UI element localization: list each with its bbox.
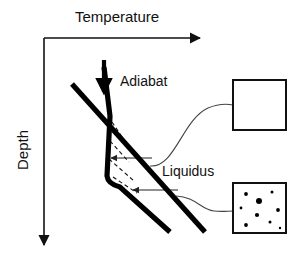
melt-dot [269, 221, 272, 224]
solid-mantle-inset-box [233, 80, 286, 130]
partial-melt-inset [233, 183, 286, 233]
melt-dot [240, 207, 243, 210]
melt-dot [255, 213, 259, 217]
liquidus-label: Liquidus [162, 163, 214, 179]
hatch-line [109, 159, 134, 181]
solid-mantle-leader-curve [150, 104, 233, 166]
melt-dot [276, 208, 280, 212]
diagram-canvas: Temperature Depth Adiabat Liquidus [0, 0, 301, 271]
temperature-axis-label: Temperature [75, 8, 159, 25]
solid-mantle-inset [233, 80, 286, 130]
figure-root: Temperature Depth Adiabat Liquidus [0, 0, 301, 271]
depth-axis-label: Depth [14, 130, 31, 170]
leader-group [150, 104, 233, 211]
liquidus-line [72, 84, 205, 232]
adiabat-label: Adiabat [120, 73, 168, 89]
melt-dot [271, 191, 274, 194]
melt-dot [244, 192, 248, 196]
melt-dot [244, 223, 248, 227]
melt-dot [279, 227, 281, 229]
melt-dot [256, 198, 262, 204]
adiabat-geotherm-path [104, 67, 170, 232]
